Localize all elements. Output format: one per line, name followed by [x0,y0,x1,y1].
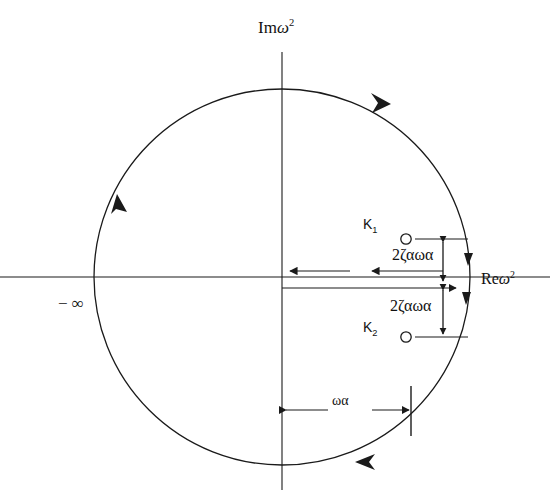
pole-marker-k1 [401,234,468,244]
circle-edge-arrow-upper [464,253,473,266]
imaginary-axis-label: Imω2 [258,18,294,36]
pole-marker-k2 [401,332,468,342]
k1-letter: K [363,216,372,232]
diagram-canvas [0,0,550,503]
diagram-root: Imω2 Reω2 − ∞ K1 K2 2ζαωα 2ζαωα ωα [0,0,550,503]
circle-direction-arrow-left [111,194,127,214]
negative-infinity-label: − ∞ [58,295,84,312]
k1-index: 1 [372,225,377,235]
circle-direction-arrow-upper-right [371,93,391,113]
circle-direction-arrow-bottom [355,454,375,470]
re-symbol: ω [499,270,510,287]
pole-label-k1: K1 [363,217,377,235]
im-exponent: 2 [289,17,294,28]
im-prefix: Im [258,18,277,37]
re-prefix: Re [481,270,499,287]
radius-label-omega-alpha: ωα [332,394,349,408]
damping-label-lower: 2ζαωα [390,298,431,314]
real-axis-label: Reω2 [481,270,515,287]
k2-letter: K [363,319,372,335]
im-symbol: ω [277,18,289,37]
damping-label-upper: 2ζαωα [392,247,433,263]
k2-index: 2 [372,328,377,338]
circle-edge-arrow-lower [462,292,471,305]
pole-label-k2: K2 [363,320,377,338]
re-exponent: 2 [510,269,515,280]
